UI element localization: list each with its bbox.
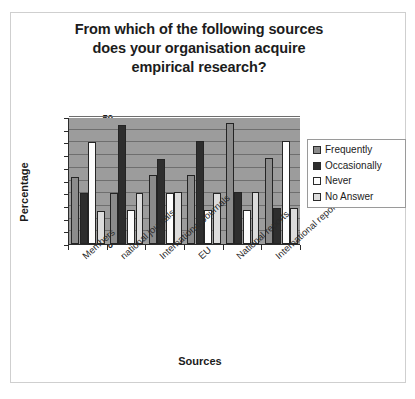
legend-swatch-icon bbox=[313, 193, 321, 201]
legend-swatch-icon bbox=[313, 177, 321, 185]
bar-0-0 bbox=[71, 177, 79, 244]
x-axis-tick-mark bbox=[107, 245, 108, 250]
legend-item-2: Never bbox=[313, 175, 401, 187]
legend-label: Frequently bbox=[325, 145, 372, 155]
gridline bbox=[69, 129, 300, 130]
y-axis-title-text: Percentage bbox=[18, 147, 30, 237]
chart-page: From which of the following sources does… bbox=[0, 0, 415, 399]
legend-item-1: Occasionally bbox=[313, 160, 401, 172]
gridline bbox=[69, 141, 300, 142]
gridline bbox=[69, 116, 300, 117]
legend-label: Occasionally bbox=[325, 161, 382, 171]
legend-swatch-icon bbox=[313, 146, 321, 154]
legend-label: No Answer bbox=[325, 192, 373, 202]
bar-2-0 bbox=[88, 142, 96, 244]
legend-swatch-icon bbox=[313, 162, 321, 170]
bar-2-5 bbox=[282, 141, 290, 244]
x-axis-title: Sources bbox=[120, 355, 280, 367]
legend-item-3: No Answer bbox=[313, 191, 401, 203]
x-axis-tick-mark bbox=[300, 245, 301, 250]
x-axis-tick-mark bbox=[261, 245, 262, 250]
bar-0-4 bbox=[226, 123, 234, 244]
legend-item-0: Frequently bbox=[313, 144, 401, 156]
x-axis-tick-label-3: EU bbox=[196, 244, 213, 261]
x-axis-tick-mark bbox=[223, 245, 224, 250]
y-axis-title: Percentage bbox=[17, 148, 31, 198]
legend-label: Never bbox=[325, 176, 352, 186]
gridline bbox=[69, 154, 300, 155]
bar-1-4 bbox=[234, 192, 242, 244]
bar-1-0 bbox=[80, 193, 88, 244]
x-axis-tick-mark bbox=[145, 245, 146, 250]
plot-wrapper: Percentage 05101520253035404550 Membersn… bbox=[0, 0, 415, 399]
x-axis-tick-mark bbox=[184, 245, 185, 250]
chart-legend: FrequentlyOccasionallyNeverNo Answer bbox=[307, 139, 406, 208]
bar-1-1 bbox=[118, 125, 126, 244]
x-axis-tick-mark bbox=[68, 245, 69, 250]
